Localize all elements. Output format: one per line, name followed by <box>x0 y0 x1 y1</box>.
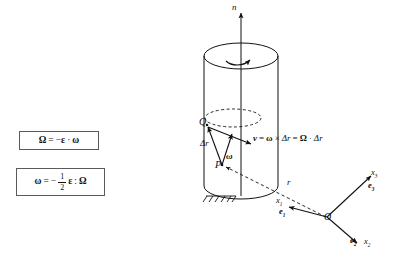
equation-box-2-content: ω = − 1 2 ε : Ω <box>35 173 87 192</box>
rotation-arrow-icon <box>226 60 250 65</box>
main-eq-dot: · <box>309 134 312 143</box>
x3-subscript: 3 <box>375 173 378 179</box>
eq2-Omega: Ω <box>79 177 87 187</box>
eq1-epsilon: ε <box>61 136 65 146</box>
label-origin-o: O <box>324 212 331 222</box>
label-axis-x3: x3 <box>371 168 377 179</box>
label-delta-r: Δr <box>200 139 209 148</box>
label-axis-x2: x2 <box>364 237 370 248</box>
main-eq-equals-2: = <box>293 134 298 143</box>
label-basis-e1: e1 <box>279 207 285 218</box>
e2-subscript: 2 <box>354 241 357 247</box>
equation-box-omega-tensor: Ω = − ε · ω <box>19 131 99 150</box>
main-eq-v: v <box>253 134 257 143</box>
eq1-lhs: Ω <box>39 136 47 146</box>
eq1-relation: = <box>48 136 53 146</box>
eq2-denominator: 2 <box>58 184 66 192</box>
label-omega: ω <box>226 152 233 161</box>
eq2-epsilon: ε <box>68 177 72 187</box>
coordinate-axis-x3 <box>327 176 371 217</box>
main-eq-delta-r-1: Δr <box>282 134 291 143</box>
eq2-relation: = <box>43 177 48 187</box>
main-eq-equals-1: = <box>259 134 264 143</box>
main-eq-cross: × <box>275 134 280 143</box>
e3-subscript: 3 <box>372 186 375 192</box>
eq1-operator: · <box>67 136 70 146</box>
main-eq-omega: ω <box>266 134 273 143</box>
main-eq-delta-r-2: Δr <box>314 134 323 143</box>
label-point-p: P <box>215 160 221 170</box>
equation-box-1-content: Ω = − ε · ω <box>39 136 80 146</box>
eq2-lhs: ω <box>35 177 42 187</box>
label-position-r: r <box>287 178 291 187</box>
main-eq-Omega: Ω <box>300 134 307 143</box>
equation-box-omega-vector: ω = − 1 2 ε : Ω <box>16 168 105 196</box>
label-axis-n: n <box>232 3 237 12</box>
eq1-omega: ω <box>72 136 79 146</box>
label-basis-e2: e2 <box>350 236 356 247</box>
e1-subscript: 1 <box>283 212 286 218</box>
figure-canvas: Ω = − ε · ω ω = − 1 2 ε : Ω v = ω × Δr <box>0 0 396 266</box>
eq2-sign: − <box>51 177 56 187</box>
eq2-numerator: 1 <box>58 173 66 181</box>
eq2-fraction: 1 2 <box>58 173 66 192</box>
main-equation: v = ω × Δr = Ω · Δr <box>253 134 323 143</box>
label-basis-e3: e3 <box>368 181 374 192</box>
label-point-q: Q <box>199 117 206 127</box>
eq2-operator: : <box>74 177 77 187</box>
q-path-dashed-ellipse <box>205 109 261 127</box>
x2-subscript: 2 <box>368 242 371 248</box>
